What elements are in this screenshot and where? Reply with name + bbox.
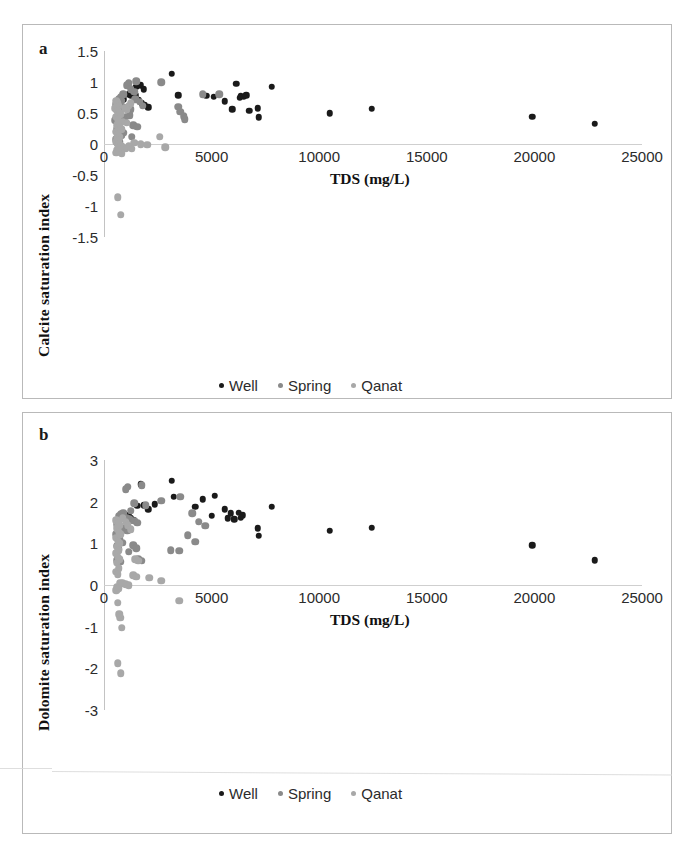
legend-marker-icon xyxy=(278,791,283,796)
data-point-qanat xyxy=(135,557,143,565)
legend-item-spring[interactable]: Spring xyxy=(278,785,331,802)
data-point-qanat xyxy=(176,597,184,605)
data-point-well xyxy=(141,86,148,93)
data-point-well xyxy=(529,113,536,120)
panel-b-legend: WellSpringQanat xyxy=(219,785,402,802)
x-tick-label: 15000 xyxy=(406,148,448,165)
data-point-well xyxy=(243,92,250,99)
data-point-qanat xyxy=(118,150,126,158)
data-point-well xyxy=(236,94,243,101)
data-point-spring xyxy=(122,485,130,493)
legend-marker-icon xyxy=(351,383,356,388)
data-point-well xyxy=(221,98,228,105)
legend-marker-icon xyxy=(351,791,356,796)
data-point-well xyxy=(169,71,176,78)
scan-artifact-line-left xyxy=(0,768,52,769)
legend-item-well[interactable]: Well xyxy=(219,377,258,394)
data-point-spring xyxy=(176,547,184,555)
data-point-qanat xyxy=(114,660,122,668)
data-point-qanat xyxy=(112,586,120,594)
legend-label: Qanat xyxy=(361,785,402,802)
legend-label: Qanat xyxy=(361,377,402,394)
data-point-well xyxy=(208,513,215,520)
data-point-spring xyxy=(125,548,133,556)
legend-item-qanat[interactable]: Qanat xyxy=(351,377,402,394)
y-tick-label: -0.5 xyxy=(72,167,98,184)
data-point-qanat xyxy=(157,577,165,585)
x-tick-label: 0 xyxy=(100,148,108,165)
figure-root: a Calcite saturation index 1.510.50-0.5-… xyxy=(0,0,695,857)
data-point-well xyxy=(327,528,334,535)
data-point-qanat xyxy=(162,143,170,151)
legend-marker-icon xyxy=(219,791,224,796)
data-point-spring xyxy=(167,546,175,554)
data-point-well xyxy=(237,514,244,521)
x-tick-label: 20000 xyxy=(514,148,556,165)
data-point-qanat xyxy=(128,145,136,153)
data-point-well xyxy=(256,533,263,540)
legend-item-spring[interactable]: Spring xyxy=(278,377,331,394)
data-point-well xyxy=(256,114,263,121)
legend-label: Well xyxy=(229,785,258,802)
data-point-spring xyxy=(133,545,141,553)
legend-label: Spring xyxy=(288,785,331,802)
data-point-qanat xyxy=(114,570,122,578)
data-point-well xyxy=(246,107,253,114)
data-point-qanat xyxy=(114,599,122,607)
data-point-well xyxy=(591,120,598,127)
data-point-qanat xyxy=(115,610,123,618)
data-point-qanat xyxy=(127,525,135,533)
legend-marker-icon xyxy=(219,383,224,388)
data-point-qanat xyxy=(156,133,164,141)
data-point-well xyxy=(233,81,240,88)
panel-b-plot-area: 3210-1-2-30500010000150002000025000 xyxy=(104,460,642,710)
data-point-spring xyxy=(133,78,141,86)
panel-a-x-axis-title: TDS (mg/L) xyxy=(330,170,410,188)
x-tick-label: 5000 xyxy=(195,589,228,606)
panel-b-zero-line xyxy=(104,585,642,586)
y-tick-label: -1.5 xyxy=(72,229,98,246)
data-point-spring xyxy=(181,115,189,123)
data-point-well xyxy=(369,105,376,112)
x-tick-label: 20000 xyxy=(514,589,556,606)
panel-a-plot-area: 1.510.50-0.5-1-1.50500010000150002000025… xyxy=(104,51,642,237)
data-point-spring xyxy=(157,497,165,505)
data-point-spring xyxy=(130,88,138,96)
data-point-qanat xyxy=(121,104,129,112)
x-tick-label: 0 xyxy=(100,589,108,606)
data-point-well xyxy=(591,557,598,564)
data-point-spring xyxy=(138,481,146,489)
y-tick-label: -2 xyxy=(85,660,98,677)
data-point-well xyxy=(175,92,182,99)
data-point-well xyxy=(212,493,219,500)
panel-b-letter: b xyxy=(39,425,48,445)
data-point-well xyxy=(169,478,176,485)
x-tick-label: 10000 xyxy=(298,148,340,165)
y-tick-label: 2 xyxy=(90,493,98,510)
legend-item-well[interactable]: Well xyxy=(219,785,258,802)
data-point-spring xyxy=(130,500,138,508)
y-tick-label: 0.5 xyxy=(77,105,98,122)
data-point-qanat xyxy=(117,211,125,219)
y-tick-label: 1 xyxy=(90,74,98,91)
data-point-well xyxy=(327,110,334,117)
data-point-spring xyxy=(134,123,142,131)
x-tick-label: 25000 xyxy=(621,148,663,165)
data-point-qanat xyxy=(118,624,126,632)
x-tick-label: 15000 xyxy=(406,589,448,606)
data-point-qanat xyxy=(117,670,125,678)
x-tick-label: 10000 xyxy=(298,589,340,606)
y-tick-label: 1 xyxy=(90,535,98,552)
data-point-spring xyxy=(157,78,165,86)
data-point-spring xyxy=(201,522,209,530)
legend-label: Well xyxy=(229,377,258,394)
data-point-qanat xyxy=(143,141,151,149)
data-point-well xyxy=(529,542,536,549)
data-point-spring xyxy=(199,91,207,99)
legend-item-qanat[interactable]: Qanat xyxy=(351,785,402,802)
legend-marker-icon xyxy=(278,383,283,388)
data-point-qanat xyxy=(145,574,153,582)
panel-a: a Calcite saturation index 1.510.50-0.5-… xyxy=(22,24,672,399)
panel-b-y-axis-title: Dolomite saturation index xyxy=(35,554,53,731)
panel-a-zero-line xyxy=(104,144,642,145)
